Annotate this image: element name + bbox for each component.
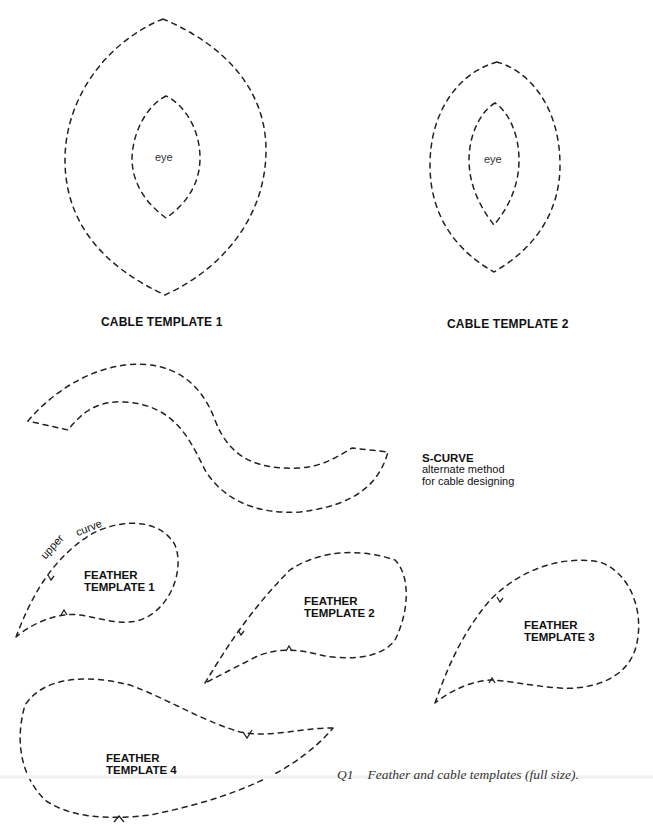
feather-template-4-label-line1: FEATHER bbox=[106, 752, 177, 764]
feather-template-1-label-line1: FEATHER bbox=[84, 569, 155, 581]
feather-template-2-label-line2: TEMPLATE 2 bbox=[304, 607, 375, 619]
feather-template-3-label-line2: TEMPLATE 3 bbox=[524, 631, 595, 643]
feather-template-2-label: FEATHER TEMPLATE 2 bbox=[304, 595, 375, 619]
s-curve-label: S-CURVE alternate method for cable desig… bbox=[422, 452, 514, 487]
feather-template-2-label-line1: FEATHER bbox=[304, 595, 375, 607]
cable-template-1-title: CABLE TEMPLATE 1 bbox=[101, 315, 223, 329]
cable-template-1-eye-label: eye bbox=[155, 151, 173, 163]
feather-template-4-outline bbox=[20, 679, 333, 817]
feather-template-3-label: FEATHER TEMPLATE 3 bbox=[524, 619, 595, 643]
cable-template-2-eye-label: eye bbox=[484, 153, 502, 165]
feather-template-2-notch-upper bbox=[238, 630, 244, 635]
cable-template-2-outer-outline bbox=[430, 62, 560, 272]
feather-template-1-notch-lower bbox=[61, 610, 67, 615]
feather-template-1-notch-upper bbox=[48, 575, 54, 580]
s-curve-description-line1: alternate method bbox=[422, 464, 514, 476]
feather-template-3-notch-upper bbox=[497, 597, 503, 602]
figure-number: Q1 bbox=[337, 767, 354, 782]
templates-drawing bbox=[0, 0, 653, 833]
cable-template-2-title: CABLE TEMPLATE 2 bbox=[447, 317, 569, 331]
s-curve-description-line2: for cable designing bbox=[422, 476, 514, 488]
s-curve-outline bbox=[28, 364, 388, 512]
template-sheet: eye CABLE TEMPLATE 1 eye CABLE TEMPLATE … bbox=[0, 0, 653, 833]
feather-template-1-label: FEATHER TEMPLATE 1 bbox=[84, 569, 155, 593]
feather-template-1-label-line2: TEMPLATE 1 bbox=[84, 581, 155, 593]
figure-caption: Q1Feather and cable templates (full size… bbox=[337, 767, 579, 783]
figure-caption-text: Feather and cable templates (full size). bbox=[368, 767, 579, 782]
feather-template-4-label: FEATHER TEMPLATE 4 bbox=[106, 752, 177, 776]
feather-template-3-label-line1: FEATHER bbox=[524, 619, 595, 631]
feather-template-2-notch-lower bbox=[286, 646, 292, 651]
